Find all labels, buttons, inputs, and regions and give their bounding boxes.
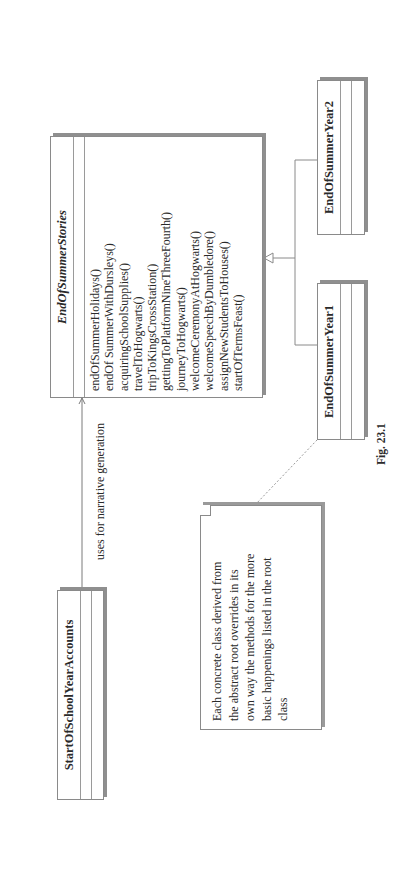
operation: travelToHogwarts() bbox=[131, 143, 145, 391]
operation: startOfTermsFeast() bbox=[231, 143, 245, 391]
operation: gettingToPlatformNineThreeFourth() bbox=[159, 143, 173, 391]
operation: welcomeSpeechByDumbledore() bbox=[202, 143, 216, 391]
operation: endOf SummerWithDursleys() bbox=[102, 143, 116, 391]
class-name: EndOfSummerYear2 bbox=[318, 81, 341, 234]
class-name: StartOfSchoolYearAccounts bbox=[58, 591, 81, 799]
class-end-of-summer-stories: EndOfSummerStories endOfSummerHolidays()… bbox=[50, 136, 263, 398]
class-start-of-school-year-accounts: StartOfSchoolYearAccounts bbox=[57, 590, 104, 800]
note-line: class bbox=[275, 514, 292, 721]
operations-compartment bbox=[352, 81, 362, 234]
diagram-canvas: StartOfSchoolYearAccounts uses for narra… bbox=[0, 0, 420, 875]
attributes-compartment bbox=[341, 81, 352, 234]
association-label: uses for narrative generation bbox=[93, 423, 108, 560]
attributes-compartment bbox=[74, 137, 85, 397]
operations-compartment: endOfSummerHolidays() endOf SummerWithDu… bbox=[85, 137, 249, 397]
generalization-triangle-icon bbox=[264, 253, 273, 263]
operation: assignNewStudentsToHouses() bbox=[217, 143, 231, 391]
class-end-of-summer-year2: EndOfSummerYear2 bbox=[317, 80, 365, 235]
operation: endOfSummerHolidays() bbox=[88, 143, 102, 391]
operation: tripToKingsCrossStation() bbox=[145, 143, 159, 391]
note-anchor-line bbox=[255, 440, 317, 505]
attributes-compartment bbox=[341, 284, 352, 439]
class-end-of-summer-year1: EndOfSummerYear1 bbox=[317, 283, 365, 440]
operation: welcomeCeremonyAtHogwarts() bbox=[188, 143, 202, 391]
note-line: Each concrete class derived from bbox=[209, 514, 226, 721]
note-comment: Each concrete class derived from the abs… bbox=[200, 505, 322, 730]
class-name: EndOfSummerStories bbox=[51, 137, 74, 397]
operation: journeyToHogwarts() bbox=[174, 143, 188, 391]
class-name: EndOfSummerYear1 bbox=[318, 284, 341, 439]
operation: acquiringSchoolSupplies() bbox=[117, 143, 131, 391]
note-line: own way the methods for the more bbox=[242, 514, 259, 721]
operations-compartment bbox=[352, 284, 362, 439]
operations-compartment bbox=[92, 591, 102, 799]
figure-caption: Fig. 23.1 bbox=[375, 423, 387, 465]
note-line: basic happenings listed in the root bbox=[259, 514, 276, 721]
attributes-compartment bbox=[81, 591, 92, 799]
note-fold-icon bbox=[200, 505, 211, 516]
note-line: the abstract root overrides in its bbox=[226, 514, 243, 721]
